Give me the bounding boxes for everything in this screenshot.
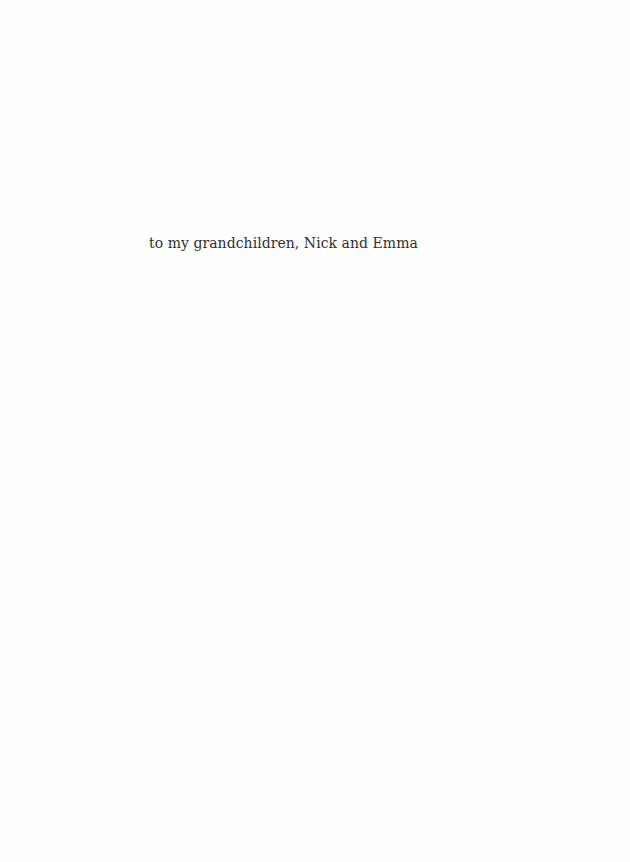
book-page: to my grandchildren, Nick and Emma xyxy=(0,0,630,862)
dedication-text: to my grandchildren, Nick and Emma xyxy=(149,233,418,253)
